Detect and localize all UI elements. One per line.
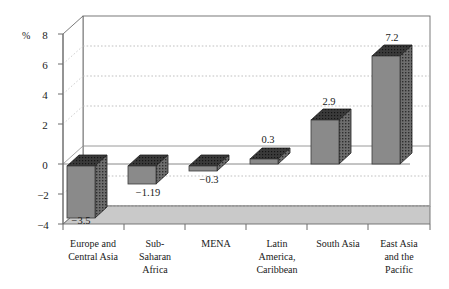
y-tick-6: 6	[42, 59, 48, 71]
svg-text:Saharan: Saharan	[139, 251, 171, 262]
bar-value-label: −0.3	[199, 174, 218, 185]
svg-text:Central Asia: Central Asia	[68, 251, 118, 262]
y-axis	[58, 34, 63, 224]
y-tick-2: 2	[42, 119, 48, 131]
svg-text:South Asia: South Asia	[316, 238, 360, 249]
cat-label-mena: MENA	[201, 238, 231, 249]
cat-label-latin-america-caribbean: Latin America, Caribbean	[256, 238, 297, 275]
bar-value-label: 0.3	[261, 134, 274, 145]
svg-text:Sub-: Sub-	[146, 238, 165, 249]
svg-text:Latin: Latin	[266, 238, 287, 249]
bar-value-label: −3.5	[71, 215, 90, 226]
svg-text:and the: and the	[384, 251, 414, 262]
bar-value-label: 2.9	[322, 96, 335, 107]
svg-text:Africa: Africa	[142, 264, 168, 275]
y-tick-0: 0	[42, 159, 48, 171]
y-tick-8: 8	[42, 29, 48, 41]
cat-label-sub-saharan-africa: Sub- Saharan Africa	[139, 238, 171, 275]
cat-label-europe-central-asia: Europe and Central Asia	[68, 238, 118, 262]
chart-container: % 8 6 4 2 0 −2 −4 −3.5	[0, 0, 449, 289]
svg-text:America,: America,	[259, 251, 296, 262]
svg-text:MENA: MENA	[201, 238, 231, 249]
y-axis-unit: %	[22, 30, 30, 41]
bar-east-asia-pacific[interactable]: 7.2	[372, 32, 412, 164]
bar-value-label: 7.2	[385, 32, 398, 43]
y-tick-neg2: −2	[37, 189, 49, 201]
x-axis-ticks	[63, 224, 430, 230]
x-axis-category-labels: Europe and Central Asia Sub- Saharan Afr…	[68, 238, 418, 275]
svg-text:Europe and: Europe and	[70, 238, 116, 249]
svg-text:Pacific: Pacific	[385, 264, 413, 275]
plot-floor	[63, 206, 430, 224]
y-tick-neg4: −4	[37, 219, 49, 231]
cat-label-south-asia: South Asia	[316, 238, 360, 249]
y-tick-4: 4	[42, 89, 48, 101]
bar-chart-svg: % 8 6 4 2 0 −2 −4 −3.5	[0, 0, 449, 289]
bar-value-label: −1.19	[136, 187, 160, 198]
cat-label-east-asia-pacific: East Asia and the Pacific	[380, 238, 418, 275]
svg-text:East Asia: East Asia	[380, 238, 418, 249]
svg-text:Caribbean: Caribbean	[256, 264, 297, 275]
y-axis-tick-labels: % 8 6 4 2 0 −2 −4	[22, 29, 49, 231]
